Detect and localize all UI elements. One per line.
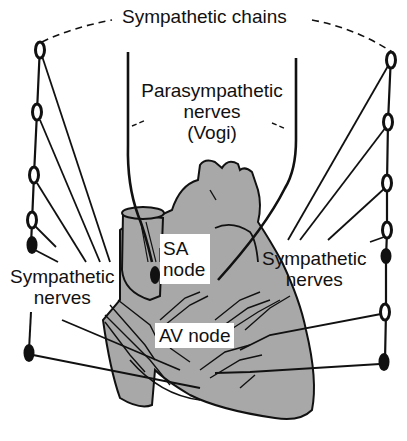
vena-cava-opening (122, 207, 164, 219)
label-sa-node-line1: SA (163, 238, 207, 259)
label-sa-node-line2: node (163, 259, 207, 280)
label-sa-node: SA node (160, 234, 210, 284)
sympathetic-chains-dashed-arc-left (42, 20, 112, 42)
label-parasympathetic-line1: Parasympathetic (132, 80, 292, 101)
label-parasympathetic-line3: (Vogi) (132, 122, 292, 143)
label-left-sympathetic-line1: Sympathetic (10, 266, 115, 287)
label-right-sympathetic-line2: nerves (262, 269, 367, 290)
label-sympathetic-chains: Sympathetic chains (118, 6, 291, 27)
label-left-sympathetic-nerves: Sympathetic nerves (10, 266, 115, 308)
label-left-sympathetic-line2: nerves (10, 287, 115, 308)
label-right-sympathetic-nerves: Sympathetic nerves (262, 248, 367, 290)
sa-node-marker (150, 266, 160, 284)
sympathetic-chains-dashed-arc-right (312, 20, 392, 52)
label-parasympathetic: Parasympathetic nerves (Vogi) (132, 80, 292, 143)
label-av-node: AV node (155, 323, 234, 348)
heart-innervation-diagram: Sympathetic chains Parasympathetic nerve… (0, 0, 407, 441)
label-right-sympathetic-line1: Sympathetic (262, 248, 367, 269)
label-parasympathetic-line2: nerves (132, 101, 292, 122)
diagram-artwork (0, 0, 407, 441)
